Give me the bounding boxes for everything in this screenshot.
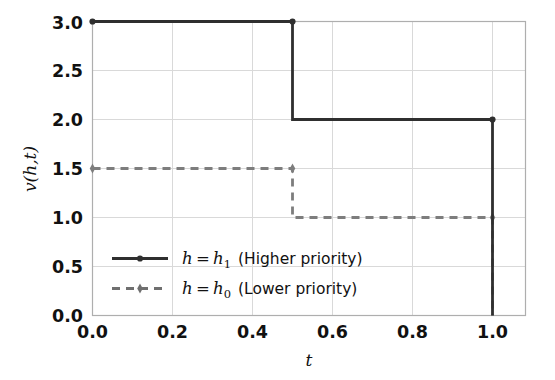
- y-label-h: h: [20, 165, 40, 176]
- step-plot-svg: 0.0 0.2 0.4 0.6 0.8 1.0 0.0 0.5 1.0 1.5 …: [0, 0, 555, 380]
- legend-label-h0: h = h0(Lower priority): [182, 279, 357, 301]
- y-tick-label-2: 1.0: [52, 208, 83, 228]
- y-label-close: ): [20, 146, 40, 154]
- x-tick-label-3: 0.6: [317, 322, 348, 342]
- legend-marker-circle-icon: [137, 255, 143, 261]
- series-h1-marker-1: [289, 18, 295, 24]
- x-axis-label: t: [306, 350, 313, 370]
- legend-label-h1: h = h1(Higher priority): [182, 249, 362, 271]
- legend-h0-math: h = h: [182, 279, 224, 298]
- legend-h1-tail: (Higher priority): [238, 250, 362, 268]
- series-h1-marker-2: [489, 116, 495, 122]
- svg-text:v(h,t): v(h,t): [20, 146, 40, 192]
- legend-h0-tail: (Lower priority): [238, 280, 357, 298]
- y-axis-label: v(h,t): [20, 146, 40, 192]
- legend-h1-sub: 1: [224, 257, 231, 271]
- y-tick-label-1: 0.5: [52, 257, 83, 277]
- x-tick-label-4: 0.8: [397, 322, 428, 342]
- x-tick-label-5: 1.0: [477, 322, 508, 342]
- y-tick-label-5: 2.5: [52, 61, 83, 81]
- x-tick-label-1: 0.2: [157, 322, 188, 342]
- y-tick-label-0: 0.0: [52, 306, 83, 326]
- legend-h0-sub: 0: [224, 287, 231, 301]
- y-label-v: v: [20, 182, 40, 192]
- y-tick-label-6: 3.0: [52, 13, 83, 33]
- x-tick-label-2: 0.4: [237, 322, 268, 342]
- series-h1-marker-0: [89, 18, 95, 24]
- chart-figure: 0.0 0.2 0.4 0.6 0.8 1.0 0.0 0.5 1.0 1.5 …: [0, 0, 555, 380]
- y-tick-label-3: 1.5: [52, 159, 83, 179]
- y-tick-label-4: 2.0: [52, 110, 83, 130]
- legend-h1-math: h = h: [182, 249, 224, 268]
